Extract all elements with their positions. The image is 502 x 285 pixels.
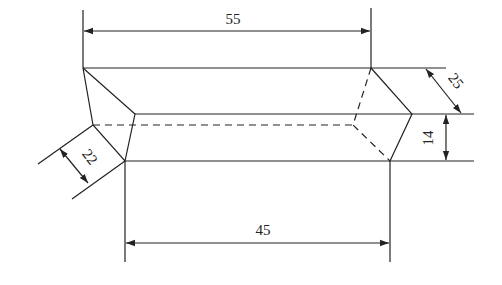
dimension-bottom-length: 45	[125, 161, 390, 262]
dimension-right-height: 14	[420, 115, 446, 160]
dimension-label: 55	[226, 11, 241, 27]
dimension-label: 22	[79, 146, 101, 168]
dimension-label: 25	[445, 70, 467, 92]
dimension-right-slant: 25	[426, 69, 467, 113]
technical-drawing: 55 45 25 14 22	[0, 0, 502, 285]
dimension-label: 45	[256, 222, 271, 238]
dimension-left-slant: 22	[38, 125, 125, 199]
dimension-label: 14	[420, 130, 436, 146]
dimension-top-length: 55	[83, 8, 371, 68]
prism-edges	[83, 68, 474, 161]
extension-line	[72, 161, 125, 199]
